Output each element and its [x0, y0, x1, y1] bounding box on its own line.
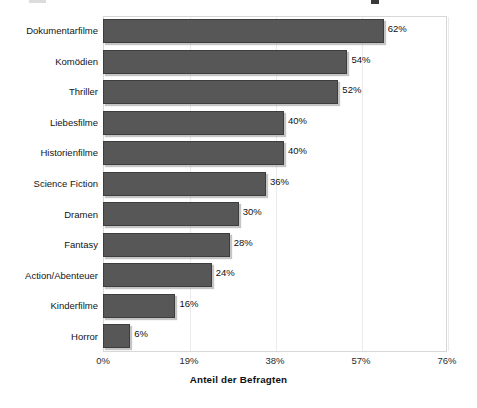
- bar-value-label: 30%: [243, 206, 262, 217]
- bar: [103, 202, 239, 226]
- bar-row: 6%: [103, 321, 447, 352]
- bar-value-label: 16%: [179, 298, 198, 309]
- gridline: [448, 17, 449, 351]
- category-label: Kinderfilme: [0, 300, 98, 311]
- bar: [103, 233, 230, 257]
- x-axis-tick-labels: 0%19%38%57%76%: [0, 355, 477, 369]
- bar: [103, 324, 130, 348]
- x-tick-label: 19%: [179, 355, 198, 367]
- category-label: Liebesfilme: [0, 117, 98, 128]
- bar-series: 62%54%52%40%40%36%30%28%24%16%6%: [103, 16, 447, 352]
- bar-value-label: 40%: [288, 115, 307, 126]
- horizontal-bar-chart: DokumentarfilmeKomödienThrillerLiebesfil…: [0, 0, 477, 408]
- bar: [103, 80, 338, 104]
- bar: [103, 172, 266, 196]
- bar-value-label: 28%: [234, 237, 253, 248]
- bar-row: 54%: [103, 47, 447, 78]
- category-label: Dramen: [0, 209, 98, 220]
- category-label: Komödien: [0, 56, 98, 67]
- bar-row: 24%: [103, 260, 447, 291]
- category-label: Historienfilme: [0, 147, 98, 158]
- bar-row: 62%: [103, 16, 447, 47]
- bar: [103, 111, 284, 135]
- bar-row: 40%: [103, 108, 447, 139]
- category-label: Fantasy: [0, 239, 98, 250]
- bar-value-label: 54%: [351, 54, 370, 65]
- bar-row: 36%: [103, 169, 447, 200]
- bar-row: 30%: [103, 199, 447, 230]
- bar-value-label: 24%: [216, 267, 235, 278]
- bar-value-label: 62%: [388, 23, 407, 34]
- category-label: Dokumentarfilme: [0, 25, 98, 36]
- bar: [103, 263, 212, 287]
- bar-value-label: 6%: [134, 328, 148, 339]
- category-axis-labels: DokumentarfilmeKomödienThrillerLiebesfil…: [0, 16, 98, 352]
- x-tick-label: 38%: [265, 355, 284, 367]
- bar-value-label: 36%: [270, 176, 289, 187]
- bar-row: 28%: [103, 230, 447, 261]
- bar: [103, 50, 347, 74]
- bar-row: 40%: [103, 138, 447, 169]
- x-axis-title: Anteil der Befragten: [0, 374, 477, 385]
- x-tick-label: 57%: [351, 355, 370, 367]
- x-tick-label: 76%: [437, 355, 456, 367]
- category-label: Action/Abenteuer: [0, 270, 98, 281]
- bar-value-label: 40%: [288, 145, 307, 156]
- bar: [103, 294, 175, 318]
- category-label: Science Fiction: [0, 178, 98, 189]
- bar-row: 52%: [103, 77, 447, 108]
- category-label: Horror: [0, 331, 98, 342]
- bar: [103, 19, 384, 43]
- category-label: Thriller: [0, 86, 98, 97]
- x-tick-label: 0%: [96, 355, 110, 367]
- bar: [103, 141, 284, 165]
- bar-value-label: 52%: [342, 84, 361, 95]
- bar-row: 16%: [103, 291, 447, 322]
